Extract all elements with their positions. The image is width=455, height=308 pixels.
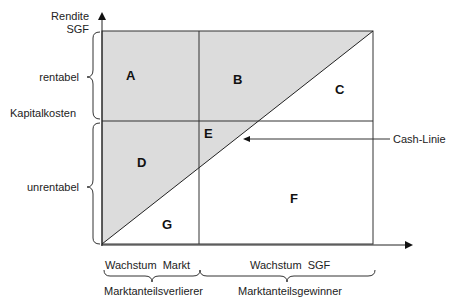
region-b: B bbox=[233, 72, 242, 87]
y-axis-title-line2: SGF bbox=[66, 23, 89, 35]
brace-wachstum-sgf bbox=[200, 270, 375, 282]
label-kapitalkosten: Kapitalkosten bbox=[10, 107, 76, 119]
region-d: D bbox=[137, 155, 146, 170]
label-unrentabel: unrentabel bbox=[27, 181, 79, 193]
label-wachstum-sgf: Wachstum SGF bbox=[250, 259, 331, 271]
region-f: F bbox=[290, 191, 298, 206]
region-e: E bbox=[204, 126, 213, 141]
label-marktanteilsgewinner: Marktanteilsgewinner bbox=[238, 285, 342, 297]
cash-line-label: Cash-Linie bbox=[393, 133, 446, 145]
region-c: C bbox=[335, 82, 345, 97]
label-wachstum-markt: Wachstum Markt bbox=[105, 259, 190, 271]
brace-rentabel bbox=[87, 32, 100, 119]
cash-line-portfolio-diagram: Rendite SGF rentabel Kapitalkosten unren… bbox=[0, 0, 455, 308]
brace-wachstum-markt bbox=[104, 270, 200, 282]
brace-unrentabel bbox=[87, 123, 100, 244]
region-g: G bbox=[162, 217, 172, 232]
label-marktanteilsverlierer: Marktanteilsverlierer bbox=[104, 285, 203, 297]
label-rentabel: rentabel bbox=[39, 71, 79, 83]
region-a: A bbox=[126, 68, 136, 83]
y-axis-title-line1: Rendite bbox=[51, 10, 89, 22]
